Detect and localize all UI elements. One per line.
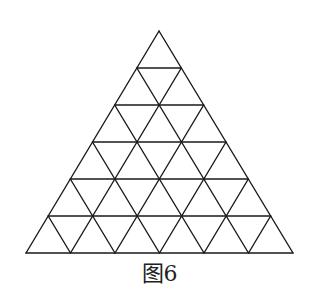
diag-line-right bbox=[93, 142, 160, 253]
figure-caption: 图6 bbox=[0, 259, 319, 289]
grid-lines bbox=[26, 31, 293, 253]
diag-line-left bbox=[160, 142, 227, 253]
diag-line-right bbox=[137, 68, 249, 253]
diag-line-right bbox=[48, 216, 70, 253]
diag-line-left bbox=[71, 68, 182, 253]
diag-line-left bbox=[249, 216, 271, 253]
